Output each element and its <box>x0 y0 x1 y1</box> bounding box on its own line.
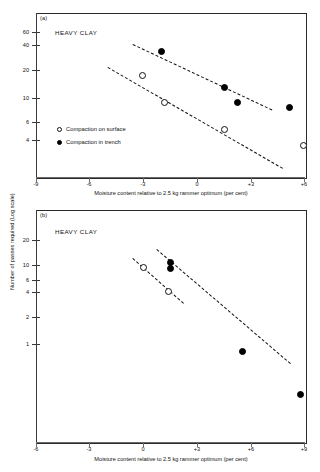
panel-b-x-axis <box>36 442 305 443</box>
panel-a-y-tick-label: 6 <box>13 119 29 125</box>
panel-b-y-tick-inner <box>37 240 40 241</box>
panel-b-x-tick-label: -3 <box>79 446 99 452</box>
panel-a-y-tick-inner <box>37 140 40 141</box>
panel-a-y-tick-label: 4 <box>13 137 29 143</box>
panel-b-x-tick-label: +3 <box>187 446 207 452</box>
panel-b-material-note: HEAVY CLAY <box>55 228 97 235</box>
data-point-surface <box>139 72 146 79</box>
panel-a-y-tick <box>32 32 36 33</box>
panel-a-x-tick-label: -6 <box>79 181 99 187</box>
panel-b-y-tick-inner <box>37 265 40 266</box>
panel-a-y-tick-label: 10 <box>13 95 29 101</box>
data-point-trench <box>221 84 228 91</box>
panel-b-y-tick-label: 2 <box>13 314 29 320</box>
panel-a-x-axis-title: Moisture content relative to 2.5 kg ramm… <box>56 190 286 196</box>
panel-a-tag: (a) <box>40 15 47 21</box>
panel-a-y-tick-inner <box>37 122 40 123</box>
panel-b-y-tick-inner <box>37 344 40 345</box>
panel-b-x-tick-label: -6 <box>26 446 46 452</box>
panel-a-x-tick-label: -9 <box>26 181 46 187</box>
panel-a-material-note: HEAVY CLAY <box>55 29 97 36</box>
data-point-surface <box>165 288 172 295</box>
data-point-surface <box>221 126 228 133</box>
panel-b-y-tick-inner <box>37 292 40 293</box>
panel-a-x-tick-label: -3 <box>133 181 153 187</box>
filled-circle-icon <box>57 140 62 145</box>
panel-a-y-axis <box>36 13 37 177</box>
panel-b-y-tick <box>32 280 36 281</box>
data-point-surface <box>161 99 168 106</box>
panel-a-y-tick-label: 60 <box>13 29 29 35</box>
panel-b-y-tick-inner <box>37 280 40 281</box>
panel-a-y-tick <box>32 98 36 99</box>
panel-a-x-axis <box>36 177 305 178</box>
panel-a-y-tick-label: 40 <box>13 42 29 48</box>
figure-container: (a) HEAVY CLAY 60 40 20 10 6 4 -9 -6 -3 <box>0 0 320 472</box>
panel-a-x-tick-label: 0 <box>187 181 207 187</box>
panel-b-y-tick-label: 4 <box>13 289 29 295</box>
data-point-trench <box>286 104 293 111</box>
panel-b-y-tick <box>32 265 36 266</box>
panel-a-y-tick <box>32 45 36 46</box>
open-circle-icon <box>57 127 62 132</box>
panel-b-y-tick <box>32 317 36 318</box>
legend-label: Compaction on surface <box>66 126 126 132</box>
panel-a-y-tick <box>32 122 36 123</box>
panel-a-frame <box>36 13 307 179</box>
legend-label: Compaction in trench <box>66 139 121 145</box>
panel-b-x-tick-label: +9 <box>294 446 314 452</box>
panel-b-y-axis <box>36 210 37 442</box>
data-point-surface <box>300 142 307 149</box>
panel-a-x-tick-label: +6 <box>294 181 314 187</box>
panel-b-y-tick <box>32 344 36 345</box>
panel-b-y-tick-label: 20 <box>13 237 29 243</box>
panel-a-y-tick-inner <box>37 32 40 33</box>
data-point-trench <box>239 348 246 355</box>
legend-item-trench: Compaction in trench <box>57 139 121 145</box>
panel-a-y-tick-inner <box>37 98 40 99</box>
data-point-surface <box>140 264 147 271</box>
panel-b-x-tick-label: +6 <box>241 446 261 452</box>
data-point-trench <box>234 99 241 106</box>
panel-a-y-tick-inner <box>37 45 40 46</box>
panel-a-y-tick-inner <box>37 70 40 71</box>
panel-b-y-tick <box>32 240 36 241</box>
legend-item-surface: Compaction on surface <box>57 126 126 132</box>
panel-b-y-tick-label: 6 <box>13 277 29 283</box>
panel-b-frame <box>36 210 307 444</box>
panel-b-x-axis-title: Moisture content relative to 2.5 kg ramm… <box>56 456 286 462</box>
panel-a-y-tick-label: 20 <box>13 67 29 73</box>
panel-a-x-tick-label: +3 <box>241 181 261 187</box>
panel-b-y-tick <box>32 292 36 293</box>
panel-a-y-tick <box>32 140 36 141</box>
panel-b-x-tick-label: 0 <box>133 446 153 452</box>
panel-a-y-tick <box>32 70 36 71</box>
data-point-trench <box>297 391 304 398</box>
panel-b-y-tick-inner <box>37 317 40 318</box>
data-point-trench <box>158 48 165 55</box>
panel-b-y-tick-label: 10 <box>13 262 29 268</box>
panel-b-tag: (b) <box>40 212 47 218</box>
panel-b-y-tick-label: 1 <box>13 341 29 347</box>
data-point-trench <box>167 265 174 272</box>
